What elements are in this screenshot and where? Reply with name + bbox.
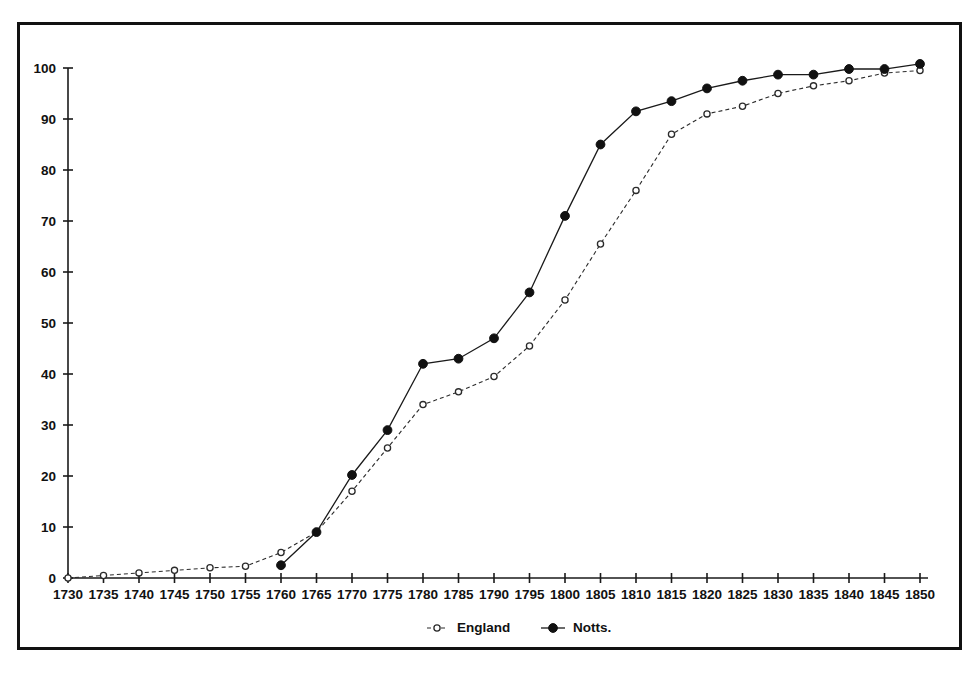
chart-series-group — [65, 60, 924, 582]
data-point-notts — [845, 65, 854, 74]
x-axis-tick-label: 1795 — [514, 587, 545, 602]
data-point-notts — [348, 471, 357, 480]
chart-legend: EnglandNotts. — [427, 620, 611, 635]
x-axis-tick-label: 1825 — [727, 587, 758, 602]
x-axis-tick-label: 1765 — [301, 587, 332, 602]
data-point-england — [349, 488, 355, 494]
data-point-notts — [880, 65, 889, 74]
data-point-notts — [383, 426, 392, 435]
data-point-england — [704, 111, 710, 117]
data-point-england — [491, 373, 497, 379]
x-axis-tick-label: 1780 — [408, 587, 438, 602]
x-axis-tick-label: 1840 — [834, 587, 864, 602]
x-axis-tick-label: 1755 — [230, 587, 261, 602]
data-point-england — [739, 103, 745, 109]
data-point-notts — [667, 97, 676, 106]
data-point-notts — [312, 528, 321, 537]
data-point-england — [455, 389, 461, 395]
chart-page: 0102030405060708090100 17301735174017451… — [0, 0, 979, 674]
x-axis-tick-label: 1810 — [621, 587, 651, 602]
line-chart: 0102030405060708090100 17301735174017451… — [0, 0, 979, 674]
x-axis-tick-label: 1735 — [88, 587, 119, 602]
data-point-england — [420, 402, 426, 408]
x-axis-tick-label: 1760 — [266, 587, 296, 602]
data-point-england — [775, 90, 781, 96]
y-axis-tick-label: 20 — [41, 469, 56, 484]
y-axis-tick-label: 30 — [41, 418, 56, 433]
x-axis-tick-label: 1770 — [337, 587, 367, 602]
data-point-england — [668, 131, 674, 137]
data-point-notts — [809, 70, 818, 79]
legend-marker-notts — [549, 624, 558, 633]
y-axis-tick-label: 90 — [41, 112, 56, 127]
data-point-england — [562, 297, 568, 303]
x-axis-tick-label: 1750 — [195, 587, 225, 602]
data-point-england — [633, 187, 639, 193]
x-axis-tick-label: 1785 — [443, 587, 474, 602]
x-axis: 1730173517401745175017551760176517701775… — [53, 573, 935, 602]
series-line-notts — [281, 64, 920, 565]
data-point-england — [526, 343, 532, 349]
data-point-england — [171, 567, 177, 573]
y-axis-tick-label: 0 — [48, 571, 56, 586]
y-axis-tick-label: 60 — [41, 265, 56, 280]
data-point-notts — [419, 359, 428, 368]
y-axis-tick-label: 70 — [41, 214, 56, 229]
data-point-england — [242, 563, 248, 569]
x-axis-tick-label: 1740 — [124, 587, 154, 602]
x-axis-tick-label: 1790 — [479, 587, 509, 602]
data-point-notts — [916, 60, 925, 69]
data-point-notts — [525, 288, 534, 297]
x-axis-tick-label: 1845 — [869, 587, 900, 602]
data-point-notts — [774, 70, 783, 79]
data-point-england — [65, 575, 71, 581]
x-axis-tick-label: 1850 — [905, 587, 935, 602]
data-point-notts — [703, 84, 712, 93]
data-point-notts — [632, 107, 641, 116]
data-point-england — [136, 570, 142, 576]
data-point-england — [100, 572, 106, 578]
legend-label-notts: Notts. — [573, 620, 611, 635]
data-point-england — [207, 565, 213, 571]
data-point-england — [384, 445, 390, 451]
data-point-england — [278, 549, 284, 555]
data-point-notts — [454, 354, 463, 363]
data-point-notts — [738, 76, 747, 85]
y-axis-tick-label: 80 — [41, 163, 56, 178]
series-line-england — [68, 71, 920, 578]
y-axis-tick-label: 50 — [41, 316, 56, 331]
legend-label-england: England — [457, 620, 510, 635]
x-axis-tick-label: 1835 — [798, 587, 829, 602]
x-axis-tick-label: 1800 — [550, 587, 580, 602]
y-axis-tick-label: 100 — [33, 61, 56, 76]
y-axis-tick-label: 10 — [41, 520, 56, 535]
x-axis-tick-label: 1805 — [585, 587, 616, 602]
data-point-england — [810, 83, 816, 89]
data-point-england — [597, 241, 603, 247]
data-point-england — [846, 78, 852, 84]
y-axis: 0102030405060708090100 — [33, 61, 73, 586]
x-axis-tick-label: 1830 — [763, 587, 793, 602]
data-point-notts — [277, 561, 286, 570]
x-axis-tick-label: 1745 — [159, 587, 190, 602]
data-point-notts — [596, 140, 605, 149]
x-axis-tick-label: 1730 — [53, 587, 83, 602]
x-axis-tick-label: 1820 — [692, 587, 722, 602]
data-point-notts — [490, 334, 499, 343]
y-axis-tick-label: 40 — [41, 367, 56, 382]
legend-marker-england — [434, 625, 440, 631]
x-axis-tick-label: 1775 — [372, 587, 403, 602]
x-axis-tick-label: 1815 — [656, 587, 687, 602]
data-point-notts — [561, 212, 570, 221]
